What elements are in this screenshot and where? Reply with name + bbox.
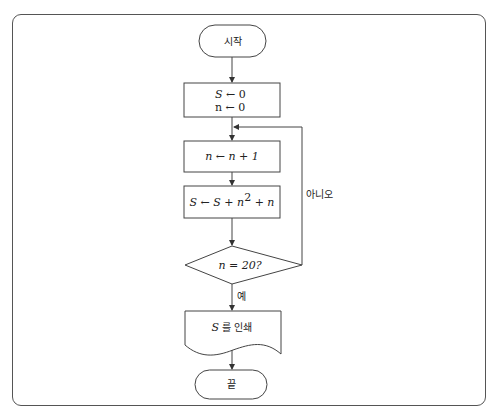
accumulate-suffix: + n — [251, 196, 274, 209]
branch-no-label: 아니오 — [306, 189, 333, 200]
decision-text: n = 20? — [218, 259, 261, 272]
end-label: 끝 — [227, 379, 236, 390]
accumulate-prefix: S ← S + n — [190, 196, 245, 209]
flowchart: 시작 S ← 0 n ← 0 n ← n + 1 S ← S + n2 + n … — [0, 0, 499, 418]
init-process: S ← 0 n ← 0 — [184, 83, 280, 117]
start-label: 시작 — [224, 36, 242, 47]
output-document: S 를 인쇄 — [185, 311, 281, 355]
accumulate-process: S ← S + n2 + n — [184, 186, 280, 218]
svg-text:S ← 0: S ← 0 — [215, 88, 246, 101]
end-terminal: 끝 — [195, 370, 267, 399]
accumulate-superscript: 2 — [244, 191, 251, 204]
increment-process: n ← n + 1 — [184, 141, 280, 172]
init-s-op: ← 0 — [223, 88, 246, 101]
increment-text: n ← n + 1 — [205, 150, 259, 163]
init-n-op: ← 0 — [222, 101, 245, 114]
decision-node: n = 20? — [185, 246, 302, 284]
svg-text:S 를 인쇄: S 를 인쇄 — [212, 321, 253, 334]
init-n-var: n — [215, 101, 222, 114]
branch-yes-label: 예 — [237, 291, 246, 302]
svg-text:n ← 0: n ← 0 — [215, 101, 245, 114]
start-terminal: 시작 — [199, 25, 266, 57]
output-label: 를 인쇄 — [219, 322, 252, 333]
